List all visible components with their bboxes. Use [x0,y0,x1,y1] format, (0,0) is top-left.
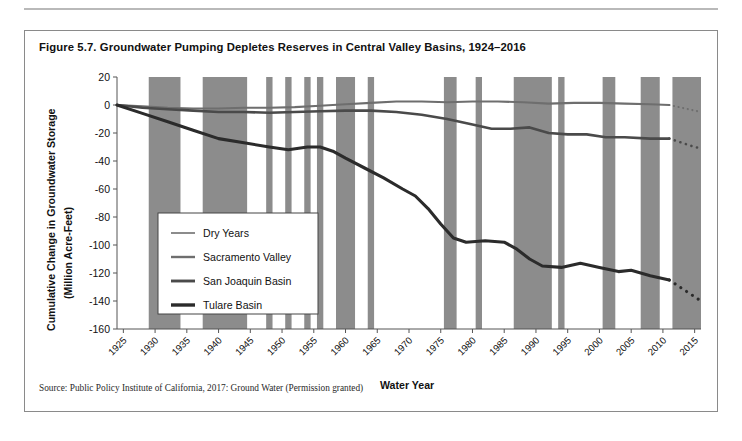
page-root: Figure 5.7. Groundwater Pumping Depletes… [0,0,742,441]
x-tick-label: 1975 [423,335,446,358]
chart-area: Cumulative Change in Groundwater Storage… [25,31,719,413]
x-tick-label: 1935 [169,335,192,358]
x-tick-label: 1930 [138,335,161,358]
dry-year-band-8 [444,77,457,329]
x-tick-label: 2000 [582,335,605,358]
dry-year-band-9 [476,77,482,329]
x-tick-label: 1995 [550,335,573,358]
dry-year-band-11 [558,77,564,329]
y-tick-label: -60 [95,183,110,195]
x-tick-label: 1925 [106,335,129,358]
x-tick-label: 2010 [645,335,668,358]
y-axis-label-line2: (Million Acre-Feet) [62,207,74,299]
y-tick-label: 0 [104,99,110,111]
x-tick-label: 1940 [201,335,224,358]
x-tick-label: 1985 [487,335,510,358]
top-divider [24,8,718,10]
x-tick-label: 1960 [328,335,351,358]
y-axis-label-line1: Cumulative Change in Groundwater Storage [45,109,57,332]
figure-container: Figure 5.7. Groundwater Pumping Depletes… [24,30,718,412]
chart-svg: 200-20-40-60-80-100-120-140-160192519301… [25,31,719,413]
legend-label-san-joaquin-basin: San Joaquin Basin [203,275,291,287]
legend-label-sacramento-valley: Sacramento Valley [203,251,292,263]
y-tick-label: -20 [95,127,110,139]
dry-year-band-10 [514,77,552,329]
x-tick-label: 1970 [392,335,415,358]
y-tick-label: -100 [89,239,110,251]
x-tick-label: 2015 [677,335,700,358]
series-line-sacramento-valley [117,102,669,109]
x-tick-label: 1980 [455,335,478,358]
x-tick-label: 1950 [265,335,288,358]
y-tick-label: -120 [89,267,110,279]
dry-year-band-13 [641,77,660,329]
y-tick-label: -140 [89,295,110,307]
dry-year-band-12 [603,77,616,329]
x-tick-label: 2005 [614,335,637,358]
y-tick-label: -40 [95,155,110,167]
y-tick-label: 20 [98,71,110,83]
chart-legend: Dry YearsSacramento ValleySan Joaquin Ba… [158,213,318,314]
y-tick-label: -80 [95,211,110,223]
x-axis-label: Water Year [380,379,434,391]
dry-year-band-6 [336,77,355,329]
figure-source: Source: Public Policy Institute of Calif… [39,383,363,393]
x-tick-label: 1990 [519,335,542,358]
x-tick-label: 1955 [296,335,319,358]
legend-label-dry-years: Dry Years [203,227,249,239]
y-tick-label: -160 [89,323,110,335]
dry-year-band-7 [368,77,374,329]
x-tick-label: 1965 [360,335,383,358]
x-tick-label: 1945 [233,335,256,358]
legend-label-tulare-basin: Tulare Basin [203,299,262,311]
